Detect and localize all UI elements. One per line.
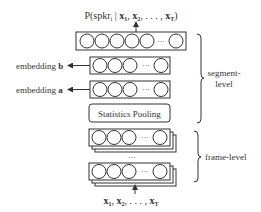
embedding-b-label: embedding b: [16, 61, 63, 71]
statistics-pooling-block: Statistics Pooling: [89, 104, 170, 122]
svg-text:···: ···: [142, 61, 150, 70]
frame-layer-2: ···: [89, 163, 176, 186]
xvector-architecture-diagram: P(spkri | x1, x2, . . . , xT) ··· ··· em…: [0, 0, 261, 212]
frame-layer-1: ···: [89, 129, 176, 152]
output-probability-label: P(spkri | x1, x2, . . . , xT): [84, 10, 177, 22]
frame-level-brace: [194, 131, 201, 182]
svg-text:Statistics Pooling: Statistics Pooling: [98, 109, 161, 119]
embedding-b-layer: ···: [90, 57, 170, 74]
output-layer: ···: [76, 32, 186, 50]
svg-text:···: ···: [142, 85, 150, 94]
svg-text:···: ···: [141, 133, 149, 142]
segment-level-label-line2: level: [215, 79, 233, 89]
embedding-a-layer: ···: [90, 81, 170, 98]
segment-level-label: segment-: [208, 68, 241, 78]
frame-level-label: frame-level: [205, 152, 247, 162]
svg-text:···: ···: [157, 37, 165, 46]
between-layers-ellipsis: ···: [128, 153, 136, 162]
svg-text:···: ···: [141, 167, 149, 176]
input-sequence-label: x1, x2, . . . , xT: [103, 195, 158, 207]
embedding-a-label: embedding a: [16, 85, 63, 95]
segment-level-brace: [197, 34, 204, 123]
